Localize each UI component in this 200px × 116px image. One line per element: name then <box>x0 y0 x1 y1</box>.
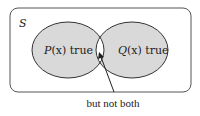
venn-diagram: S P(x) true Q(x) true but not both <box>0 0 200 116</box>
set-p-label: P(x) true <box>43 44 93 57</box>
set-q-label: Q(x) true <box>118 44 169 57</box>
annotation-label: but not both <box>86 97 140 109</box>
universe-label: S <box>19 17 27 30</box>
